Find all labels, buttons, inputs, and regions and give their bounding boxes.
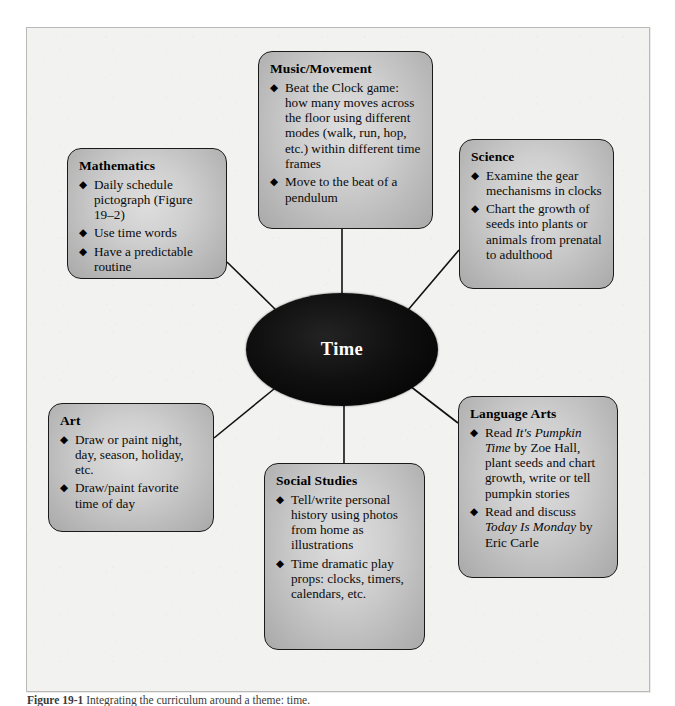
diamond-bullet-icon: ◆ (276, 556, 284, 571)
topic-box-social-studies: Social Studies ◆Tell/write personal hist… (264, 463, 425, 650)
topic-item-text: Chart the growth of seeds into plants or… (486, 201, 602, 262)
topic-title-science: Science (471, 149, 602, 165)
topic-box-art: Art ◆Draw or paint night, day, season, h… (48, 403, 214, 532)
topic-item: ◆Tell/write personal history using photo… (276, 492, 413, 553)
topic-item-text: Read It's Pumpkin Time by Zoe Hall, plan… (485, 425, 595, 501)
figure-caption-number: Figure 19-1 (27, 694, 83, 706)
topic-item-text: Use time words (94, 225, 177, 240)
topic-item: ◆Use time words (79, 225, 215, 240)
diamond-bullet-icon: ◆ (471, 201, 479, 216)
figure-caption: Figure 19-1 Integrating the curriculum a… (27, 694, 627, 706)
topic-list-science: ◆Examine the gear mechanisms in clocks◆C… (471, 168, 602, 263)
topic-item: ◆Have a predictable routine (79, 244, 215, 275)
topic-item: ◆Read It's Pumpkin Time by Zoe Hall, pla… (470, 425, 606, 502)
topic-box-music-movement: Music/Movement ◆Beat the Clock game: how… (258, 51, 433, 229)
center-node-time: Time (246, 293, 438, 406)
topic-title-art: Art (60, 413, 202, 429)
diamond-bullet-icon: ◆ (470, 504, 478, 519)
topic-box-mathematics: Mathematics ◆Daily schedule pictograph (… (67, 148, 227, 279)
topic-item: ◆Examine the gear mechanisms in clocks (471, 168, 602, 199)
topic-item: ◆Move to the beat of a pendulum (270, 174, 421, 205)
diamond-bullet-icon: ◆ (60, 432, 68, 447)
diamond-bullet-icon: ◆ (276, 492, 284, 507)
topic-item-text: Draw or paint night, day, season, holida… (75, 432, 184, 478)
topic-item-text: Have a predictable routine (94, 244, 193, 274)
topic-item: ◆Draw/paint favorite time of day (60, 480, 202, 511)
topic-item: ◆Time dramatic play props: clocks, timer… (276, 556, 413, 602)
topic-title-social-studies: Social Studies (276, 473, 413, 489)
diamond-bullet-icon: ◆ (60, 480, 68, 495)
topic-item-text: Read and discuss Today Is Monday by Eric… (485, 504, 593, 550)
topic-item: ◆Daily schedule pictograph (Figure 19–2) (79, 177, 215, 223)
topic-list-mathematics: ◆Daily schedule pictograph (Figure 19–2)… (79, 177, 215, 275)
figure-caption-text: Integrating the curriculum around a them… (86, 694, 310, 706)
topic-title-language-arts: Language Arts (470, 406, 606, 422)
topic-item-text: Draw/paint favorite time of day (75, 480, 179, 510)
topic-item-text: Move to the beat of a pendulum (285, 174, 397, 204)
topic-item-text: Time dramatic play props: clocks, timers… (291, 556, 404, 602)
topic-item: ◆Draw or paint night, day, season, holid… (60, 432, 202, 478)
topic-item: ◆Beat the Clock game: how many moves acr… (270, 80, 421, 172)
topic-item-text: Beat the Clock game: how many moves acro… (285, 80, 420, 172)
diamond-bullet-icon: ◆ (270, 80, 278, 95)
topic-box-science: Science ◆Examine the gear mechanisms in … (459, 139, 614, 289)
topic-title-music-movement: Music/Movement (270, 61, 421, 77)
topic-box-language-arts: Language Arts ◆Read It's Pumpkin Time by… (458, 396, 618, 578)
topic-list-art: ◆Draw or paint night, day, season, holid… (60, 432, 202, 512)
topic-list-language-arts: ◆Read It's Pumpkin Time by Zoe Hall, pla… (470, 425, 606, 551)
diamond-bullet-icon: ◆ (471, 168, 479, 183)
topic-item-text: Tell/write personal history using photos… (291, 492, 398, 553)
topic-item-text: Examine the gear mechanisms in clocks (486, 168, 602, 198)
center-node-label: Time (321, 339, 363, 360)
topic-item-text: Daily schedule pictograph (Figure 19–2) (94, 177, 193, 223)
topic-list-music-movement: ◆Beat the Clock game: how many moves acr… (270, 80, 421, 206)
diamond-bullet-icon: ◆ (470, 425, 478, 440)
topic-item: ◆Chart the growth of seeds into plants o… (471, 201, 602, 262)
topic-title-mathematics: Mathematics (79, 158, 215, 174)
diamond-bullet-icon: ◆ (270, 174, 278, 189)
topic-list-social-studies: ◆Tell/write personal history using photo… (276, 492, 413, 602)
diamond-bullet-icon: ◆ (79, 225, 87, 240)
diamond-bullet-icon: ◆ (79, 244, 87, 259)
topic-item: ◆Read and discuss Today Is Monday by Eri… (470, 504, 606, 550)
diamond-bullet-icon: ◆ (79, 177, 87, 192)
